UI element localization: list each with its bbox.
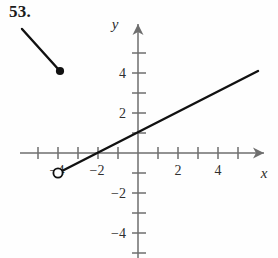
open-circle-endpoint — [53, 168, 62, 177]
figure-panel: 53. — [0, 0, 278, 258]
plotted-line-series — [53, 71, 258, 178]
y-axis — [133, 24, 144, 258]
coordinate-plane-graph: y x −4 −2 2 4 4 2 −2 −4 — [0, 0, 278, 258]
x-tick-label-4: 4 — [215, 163, 222, 178]
y-tick-label-neg4: −4 — [111, 226, 126, 241]
leader-line — [22, 29, 64, 75]
y-tick-label-2: 2 — [119, 106, 126, 121]
y-tick-label-4: 4 — [119, 66, 126, 81]
x-axis-label: x — [260, 165, 268, 181]
x-axis — [20, 148, 264, 159]
leader-line-dot — [56, 67, 64, 75]
y-tick-label-neg2: −2 — [111, 186, 126, 201]
x-tick-label-2: 2 — [175, 163, 182, 178]
y-axis-label: y — [110, 16, 119, 32]
x-tick-label-neg2: −2 — [90, 163, 105, 178]
